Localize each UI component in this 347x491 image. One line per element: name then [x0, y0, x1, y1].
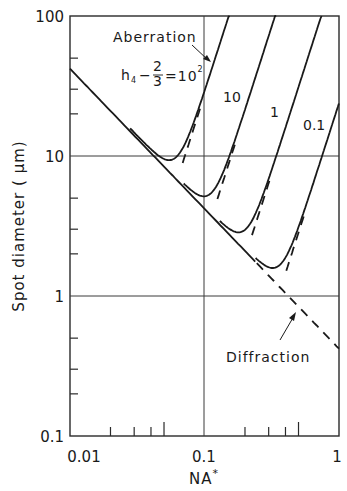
- h-label-den: 3: [153, 73, 163, 89]
- h-label: h4− 2 3 =102: [121, 58, 204, 89]
- y-axis-title: Spot diameter ( µm): [10, 140, 28, 311]
- x-tick-1: 1: [332, 448, 342, 466]
- diffraction-arrow: [280, 312, 296, 340]
- x-tick-0.1: 0.1: [192, 448, 216, 466]
- aberration-label: Aberration: [113, 29, 197, 45]
- x-tick-0.01: 0.01: [67, 448, 100, 466]
- aberration-arrow: [192, 45, 211, 62]
- curve-h-0.1-aberration-dash: [286, 217, 303, 271]
- curve-label-1: 1: [270, 104, 279, 120]
- curve-label-0.1: 0.1: [303, 117, 325, 133]
- curve-h-1-aberration-dash: [252, 181, 269, 235]
- svg-text:h4−: h4−: [121, 67, 152, 85]
- svg-text:=102: =102: [165, 65, 204, 84]
- y-tick-10: 10: [45, 148, 64, 166]
- h-label-minus: −: [139, 67, 152, 83]
- h-label-eq: =10: [165, 68, 198, 84]
- h-label-exp: 2: [198, 65, 204, 74]
- h-label-sub: 4: [131, 76, 137, 85]
- h-label-num: 2: [153, 58, 163, 74]
- y-tick-0.1: 0.1: [40, 428, 64, 446]
- curve-h-10: [184, 16, 277, 196]
- curve-label-10: 10: [223, 89, 241, 105]
- y-tick-100: 100: [35, 8, 64, 26]
- x-axis-title-sup: *: [212, 467, 219, 480]
- spot-diameter-chart: 100 10 1 0.1 0.01 0.1 1 NA* Spot diamete…: [0, 0, 347, 491]
- diffraction-line-dashed: [257, 263, 339, 349]
- minor-ticks: [70, 58, 299, 436]
- h-label-h: h: [121, 67, 131, 83]
- x-axis-title-main: NA: [189, 470, 212, 488]
- curve-h-100-aberration-dash: [183, 109, 200, 163]
- diffraction-label: Diffraction: [226, 349, 310, 365]
- x-axis-title: NA*: [189, 467, 219, 488]
- curve-h-10-aberration-dash: [217, 145, 234, 199]
- y-tick-1: 1: [54, 288, 64, 306]
